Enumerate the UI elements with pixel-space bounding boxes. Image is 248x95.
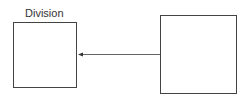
arrowhead-icon	[78, 53, 83, 57]
arrow-connector	[0, 0, 248, 95]
